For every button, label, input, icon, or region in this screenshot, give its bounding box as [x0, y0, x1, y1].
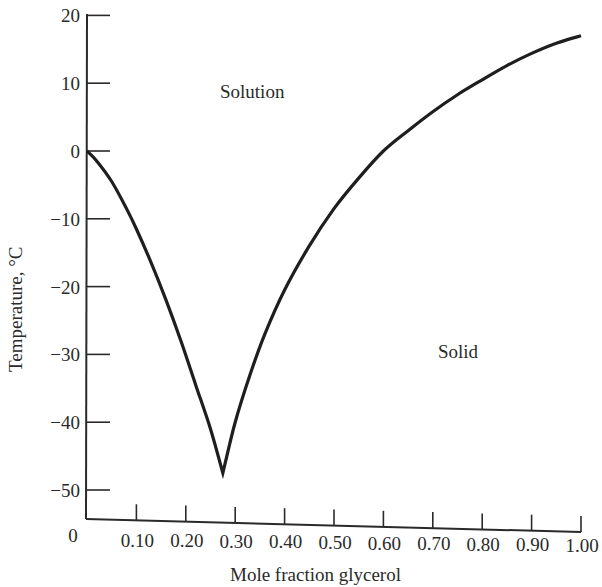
y-axis-line [86, 14, 87, 519]
phase-diagram: 20100−10−20−30−40−50 00.100.200.300.400.… [0, 0, 602, 587]
region-label-solid: Solid [438, 341, 479, 362]
y-axis-title: Temperature, °C [5, 247, 26, 373]
x-tick-label: 0.10 [121, 530, 154, 551]
y-tick-label: −50 [50, 480, 80, 501]
y-tick-label: −20 [50, 277, 80, 298]
y-tick-label: −40 [50, 412, 80, 433]
x-tick-label: 0.20 [170, 530, 203, 551]
y-tick-label: 0 [71, 141, 81, 162]
y-tick-label: 10 [61, 73, 80, 94]
x-axis-title: Mole fraction glycerol [230, 564, 401, 585]
y-ticks: 20100−10−20−30−40−50 [50, 5, 110, 501]
freezing-point-curve [87, 36, 581, 473]
x-tick-label: 0.70 [417, 533, 450, 554]
x-tick-label: 0.40 [269, 531, 302, 552]
x-tick-label: 0.90 [516, 534, 549, 555]
x-tick-label: 0 [68, 525, 78, 546]
y-tick-label: −10 [50, 209, 80, 230]
x-tick-label: 1.00 [565, 535, 598, 556]
y-tick-label: −30 [50, 344, 80, 365]
x-tick-label: 0.50 [318, 532, 351, 553]
region-label-solution: Solution [220, 81, 285, 102]
x-tick-label: 0.60 [368, 533, 401, 554]
y-tick-label: 20 [61, 5, 80, 26]
x-tick-label: 0.30 [220, 531, 253, 552]
x-tick-label: 0.80 [467, 534, 500, 555]
